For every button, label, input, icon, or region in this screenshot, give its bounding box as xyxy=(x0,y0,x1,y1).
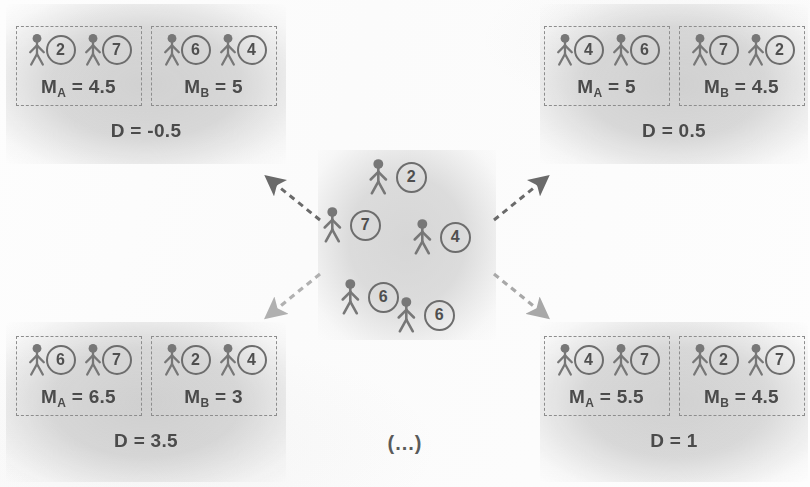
member-value-badge: 4 xyxy=(237,345,267,375)
group-row: 67MA = 6.524MB = 3 xyxy=(16,336,277,416)
member-value-badge: 7 xyxy=(765,345,795,375)
person-icon xyxy=(26,343,48,377)
member-value-badge: 7 xyxy=(350,210,381,241)
person-icon xyxy=(161,33,183,67)
group-members: 64 xyxy=(161,33,267,67)
member-unit: 7 xyxy=(745,343,795,377)
difference-label: D = -0.5 xyxy=(111,120,182,142)
panel-top-right: 46MA = 572MB = 4.5D = 0.5 xyxy=(540,4,808,164)
arrow-to-top-left xyxy=(258,168,326,226)
member-value-badge: 2 xyxy=(765,35,795,65)
member-unit: 2 xyxy=(26,33,76,67)
member-value-badge: 6 xyxy=(181,35,211,65)
panel-bottom-left: 67MA = 6.524MB = 3D = 3.5 xyxy=(6,322,286,482)
panel-top-right-content: 46MA = 572MB = 4.5D = 0.5 xyxy=(540,4,808,164)
member-value-badge: 7 xyxy=(102,345,132,375)
person-icon xyxy=(26,33,48,67)
member-unit: 7 xyxy=(610,343,660,377)
member-unit: 7 xyxy=(689,33,739,67)
person-icon xyxy=(745,33,767,67)
member-unit: 7 xyxy=(82,33,132,67)
member-value-badge: 2 xyxy=(709,345,739,375)
arrow-to-top-right xyxy=(488,168,556,226)
person-icon xyxy=(217,343,239,377)
group-members: 27 xyxy=(26,33,132,67)
member-unit: 2 xyxy=(745,33,795,67)
panel-bottom-left-content: 67MA = 6.524MB = 3D = 3.5 xyxy=(6,322,286,482)
group-box-b: 64MB = 5 xyxy=(151,26,277,106)
member-unit: 6 xyxy=(26,343,76,377)
group-mean-label: MA = 5 xyxy=(577,76,636,98)
group-box-b: 72MB = 4.5 xyxy=(679,26,805,106)
group-mean-label: MB = 5 xyxy=(184,76,243,98)
person-icon xyxy=(689,33,711,67)
pool-member: 6 xyxy=(338,278,399,316)
group-box-a: 46MA = 5 xyxy=(544,26,670,106)
member-unit: 4 xyxy=(217,343,267,377)
group-box-a: 27MA = 4.5 xyxy=(16,26,142,106)
group-box-a: 67MA = 6.5 xyxy=(16,336,142,416)
member-unit: 7 xyxy=(82,343,132,377)
person-icon xyxy=(689,343,711,377)
person-icon xyxy=(610,343,632,377)
person-icon xyxy=(161,343,183,377)
person-icon xyxy=(82,33,104,67)
member-value-badge: 7 xyxy=(630,345,660,375)
group-members: 46 xyxy=(554,33,660,67)
group-mean-label: MA = 6.5 xyxy=(41,386,116,408)
group-box-b: 27MB = 4.5 xyxy=(679,336,805,416)
member-value-badge: 6 xyxy=(424,300,455,331)
person-icon xyxy=(610,33,632,67)
person-icon xyxy=(745,343,767,377)
member-value-badge: 2 xyxy=(396,162,427,193)
panel-top-left-content: 27MA = 4.564MB = 5D = -0.5 xyxy=(6,4,286,164)
difference-label: D = 0.5 xyxy=(642,120,706,142)
member-value-badge: 4 xyxy=(237,35,267,65)
person-icon xyxy=(554,33,576,67)
member-value-badge: 4 xyxy=(440,222,471,253)
member-value-badge: 4 xyxy=(574,345,604,375)
arrow-to-bottom-left xyxy=(258,268,326,326)
group-members: 27 xyxy=(689,343,795,377)
pool-member: 4 xyxy=(410,218,471,256)
panel-top-left: 27MA = 4.564MB = 5D = -0.5 xyxy=(6,4,286,164)
member-value-badge: 2 xyxy=(46,35,76,65)
group-mean-label: MB = 4.5 xyxy=(704,386,779,408)
member-unit: 4 xyxy=(554,33,604,67)
group-members: 24 xyxy=(161,343,267,377)
person-icon xyxy=(394,296,419,334)
member-value-badge: 6 xyxy=(630,35,660,65)
member-unit: 6 xyxy=(161,33,211,67)
member-value-badge: 6 xyxy=(46,345,76,375)
group-box-a: 47MA = 5.5 xyxy=(544,336,670,416)
person-icon xyxy=(217,33,239,67)
member-value-badge: 2 xyxy=(181,345,211,375)
member-value-badge: 4 xyxy=(574,35,604,65)
group-mean-label: MB = 3 xyxy=(184,386,243,408)
group-members: 47 xyxy=(554,343,660,377)
person-icon xyxy=(338,278,363,316)
group-mean-label: MA = 4.5 xyxy=(41,76,116,98)
member-value-badge: 7 xyxy=(102,35,132,65)
pool-member: 7 xyxy=(320,206,381,244)
member-value-badge: 7 xyxy=(709,35,739,65)
pool-member: 6 xyxy=(394,296,455,334)
member-unit: 4 xyxy=(217,33,267,67)
arrow-to-bottom-right xyxy=(488,268,556,326)
person-icon xyxy=(410,218,435,256)
group-members: 67 xyxy=(26,343,132,377)
group-box-b: 24MB = 3 xyxy=(151,336,277,416)
group-mean-label: MA = 5.5 xyxy=(569,386,644,408)
continuation-ellipsis: (...) xyxy=(0,432,810,455)
group-members: 72 xyxy=(689,33,795,67)
member-unit: 2 xyxy=(689,343,739,377)
candidate-pool: 27466 xyxy=(318,150,496,340)
panel-bottom-right-content: 47MA = 5.527MB = 4.5D = 1 xyxy=(540,322,808,482)
member-unit: 2 xyxy=(161,343,211,377)
pool-member: 2 xyxy=(366,158,427,196)
group-row: 27MA = 4.564MB = 5 xyxy=(16,26,277,106)
person-icon xyxy=(554,343,576,377)
person-icon xyxy=(82,343,104,377)
group-mean-label: MB = 4.5 xyxy=(704,76,779,98)
member-unit: 4 xyxy=(554,343,604,377)
